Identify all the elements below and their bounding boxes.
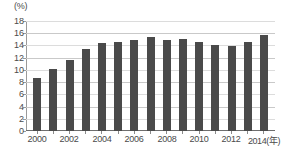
x-axis-tick-label: 2014(年): [248, 134, 280, 147]
bar-slot: [175, 21, 191, 131]
bar-slot: [126, 21, 142, 131]
bar: [114, 42, 122, 131]
x-axis-tick-label: 2008: [157, 134, 176, 144]
bar-slot: [207, 21, 223, 131]
x-axis-tick-mark: [182, 131, 183, 134]
x-axis-tick-label: 2002: [59, 134, 78, 144]
bar-slot: [110, 21, 126, 131]
x-axis-tick-label: 2000: [27, 134, 46, 144]
y-axis-tick-label: 4: [2, 102, 24, 112]
bar-slot: [191, 21, 207, 131]
bar: [195, 42, 203, 131]
y-axis-tick-label: 18: [2, 16, 24, 26]
x-axis-tick-mark: [215, 131, 216, 134]
bar-slot: [240, 21, 256, 131]
bar: [66, 60, 74, 131]
bar-slot: [78, 21, 94, 131]
bar-slot: [94, 21, 110, 131]
bar-slot: [142, 21, 158, 131]
bar-chart: (%) 181614121086420 20002002200420062008…: [0, 0, 283, 156]
bar-series: [26, 21, 275, 131]
y-axis-tick-label: 2: [2, 114, 24, 124]
bar-slot: [45, 21, 61, 131]
y-axis-tick-label: 10: [2, 65, 24, 75]
plot-area: [26, 21, 275, 131]
bar: [98, 43, 106, 131]
x-axis-tick-mark: [85, 131, 86, 134]
bar: [211, 45, 219, 131]
y-axis-tick-label: 12: [2, 53, 24, 63]
bar: [49, 69, 57, 131]
bar-slot: [223, 21, 239, 131]
x-axis-tick-label: 2012: [221, 134, 240, 144]
x-axis-tick-label: 2010: [189, 134, 208, 144]
bar: [82, 49, 90, 132]
bar-slot: [159, 21, 175, 131]
bar: [260, 35, 268, 131]
bar-slot: [29, 21, 45, 131]
bar: [130, 40, 138, 131]
x-axis-tick-mark: [118, 131, 119, 134]
bar: [244, 42, 252, 131]
bar: [163, 40, 171, 131]
y-axis-tick-label: 8: [2, 77, 24, 87]
bar: [33, 78, 41, 131]
y-axis-tick-label: 14: [2, 40, 24, 50]
x-axis-tick-label: 2004: [92, 134, 111, 144]
x-axis-tick-label: 2006: [124, 134, 143, 144]
x-axis-tick-mark: [53, 131, 54, 134]
bar: [147, 37, 155, 131]
bar-slot: [61, 21, 77, 131]
bar-slot: [256, 21, 272, 131]
y-axis-unit-label: (%): [14, 1, 27, 11]
y-axis-tick-label: 0: [2, 126, 24, 136]
y-axis-tick-label: 16: [2, 28, 24, 38]
y-axis-tick-label: 6: [2, 89, 24, 99]
bar: [179, 39, 187, 131]
x-axis-tick-mark: [150, 131, 151, 134]
bar: [228, 46, 236, 131]
